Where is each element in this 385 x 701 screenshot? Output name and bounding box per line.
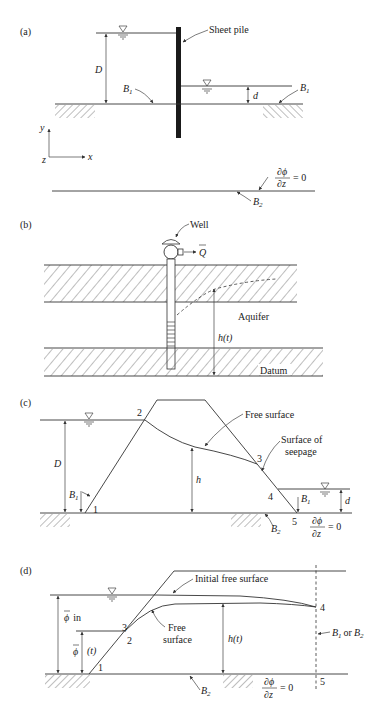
panel-b-label: (b) xyxy=(20,219,32,231)
water-level-icon xyxy=(320,483,330,496)
seepage-leader xyxy=(262,441,280,471)
B2-label: B2 xyxy=(253,196,263,209)
bc-equals: = 0 xyxy=(328,521,341,532)
B2-leader xyxy=(237,192,251,201)
panel-c: (c) Free surface Surface of seepage 2 3 … xyxy=(20,397,352,539)
B1-right-label: B1 xyxy=(301,493,311,506)
initial-free-surface-leader xyxy=(173,579,193,593)
B1-left-label: B1 xyxy=(123,83,133,96)
water-level-icon xyxy=(107,588,117,601)
well-cap-icon xyxy=(162,240,180,245)
point-2: 2 xyxy=(137,407,142,418)
bc-denominator: ∂z xyxy=(277,178,286,189)
bc-leader xyxy=(259,177,268,190)
panel-b: (b) Well Q h(t) Aquifer xyxy=(20,219,323,376)
free-surface-curve xyxy=(145,420,257,464)
bc-denominator: ∂z xyxy=(312,528,321,539)
sheet-pile xyxy=(176,27,181,138)
B1-left-leader xyxy=(135,89,153,103)
B1-left-leader xyxy=(82,492,90,496)
h-label: h xyxy=(196,474,201,485)
phi-in-label: ϕin xyxy=(64,612,81,623)
z-axis-label: z xyxy=(41,154,46,165)
panel-d: (d) Initial free surface Free surface ϕi… xyxy=(20,565,364,700)
point-4: 4 xyxy=(268,491,273,502)
point-3: 3 xyxy=(257,453,262,464)
boundary-leader xyxy=(318,632,330,634)
B1-right-leader xyxy=(279,90,298,103)
surface-of-seepage-label-1: Surface of xyxy=(281,434,323,445)
free-surface-label-1: Free xyxy=(168,622,186,633)
sheet-pile-leader xyxy=(183,30,208,42)
phi-t-arg: (t) xyxy=(87,645,97,657)
datum-label: Datum xyxy=(260,365,287,376)
ground-hatch-mid xyxy=(223,675,253,688)
free-surface-curve xyxy=(126,603,316,630)
initial-free-surface-curve xyxy=(155,595,316,607)
ground-hatch-mid xyxy=(231,514,261,527)
B2-leader xyxy=(265,514,273,526)
point-5: 5 xyxy=(320,676,325,687)
sheet-pile-label: Sheet pile xyxy=(209,24,249,35)
B1-or-B2-label: B1orB2 xyxy=(332,627,364,640)
phi-t-label: ϕ xyxy=(73,646,78,657)
water-level-icon xyxy=(118,26,128,39)
h-label: h(t) xyxy=(218,332,233,344)
panel-a-label: (a) xyxy=(20,26,31,38)
water-level-icon xyxy=(84,413,94,426)
point-5: 5 xyxy=(292,516,297,527)
well-leader xyxy=(176,224,189,237)
x-axis-label: x xyxy=(87,151,93,162)
ground-hatch-left xyxy=(45,675,90,688)
initial-free-surface-label: Initial free surface xyxy=(195,573,269,584)
h-label: h(t) xyxy=(228,633,243,645)
Q-label: Q xyxy=(199,247,207,258)
well-outlet-icon xyxy=(178,249,183,255)
d-label: d xyxy=(253,90,259,101)
point-2: 2 xyxy=(127,635,132,646)
ground-hatch-left xyxy=(55,105,95,118)
water-level-icon xyxy=(202,80,212,93)
point-3: 3 xyxy=(122,622,127,633)
D-label: D xyxy=(94,64,103,75)
panel-d-label: (d) xyxy=(20,565,32,577)
free-surface-label-2: surface xyxy=(163,634,192,645)
figure-canvas: (a) Sheet pile D d B1 xyxy=(0,0,385,701)
B2-leader xyxy=(190,676,200,690)
free-surface-label: Free surface xyxy=(245,409,295,420)
well-label: Well xyxy=(190,219,209,230)
y-axis-label: y xyxy=(39,122,45,133)
d-label: d xyxy=(345,495,351,506)
B1-left-label: B1 xyxy=(69,489,79,502)
B1-right-label: B1 xyxy=(300,82,310,95)
bc-numerator: ∂ϕ xyxy=(264,676,274,687)
surface-of-seepage-label-2: seepage xyxy=(285,446,317,457)
bc-numerator: ∂ϕ xyxy=(277,166,287,177)
D-label: D xyxy=(53,458,62,469)
free-surface-leader xyxy=(152,610,165,627)
panel-a: (a) Sheet pile D d B1 xyxy=(20,24,315,209)
bc-numerator: ∂ϕ xyxy=(312,515,322,526)
free-surface-leader xyxy=(205,414,243,446)
dam-outline xyxy=(89,571,346,674)
bc-equals: = 0 xyxy=(293,172,306,183)
bc-denominator: ∂z xyxy=(264,689,273,700)
aquifer-label: Aquifer xyxy=(238,311,270,322)
point-4: 4 xyxy=(320,602,325,613)
panel-c-label: (c) xyxy=(20,397,31,409)
bc-equals: = 0 xyxy=(280,682,293,693)
B2-label: B2 xyxy=(201,685,211,698)
well-head-icon xyxy=(164,245,178,259)
point-1: 1 xyxy=(98,662,103,673)
ground-hatch-right xyxy=(263,105,303,118)
ground-hatch-left xyxy=(40,514,70,527)
